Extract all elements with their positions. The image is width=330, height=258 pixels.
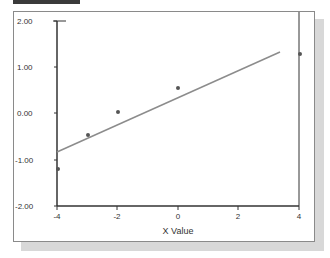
fit-line (57, 52, 280, 152)
svg-text:2: 2 (236, 212, 241, 221)
svg-text:4: 4 (297, 212, 302, 221)
svg-text:-4: -4 (53, 212, 61, 221)
data-point (116, 110, 120, 114)
svg-text:-2: -2 (113, 212, 121, 221)
data-point (298, 52, 302, 56)
svg-text:2.00: 2.00 (17, 17, 33, 26)
svg-text:0.00: 0.00 (17, 109, 33, 118)
svg-text:0: 0 (176, 212, 181, 221)
data-point (86, 133, 90, 137)
svg-text:1.00: 1.00 (17, 63, 33, 72)
data-point (56, 167, 60, 171)
y-tick-labels: 2.00 1.00 0.00 -1.00 -2.00 (15, 17, 34, 211)
scatter-chart: 2.00 1.00 0.00 -1.00 -2.00 -4 -2 0 2 4 X… (0, 0, 330, 258)
svg-text:-1.00: -1.00 (15, 156, 34, 165)
svg-text:-2.00: -2.00 (15, 202, 34, 211)
x-tick-labels: -4 -2 0 2 4 (53, 212, 301, 221)
data-points (56, 52, 302, 171)
data-point (176, 86, 180, 90)
x-axis-title: X Value (163, 226, 194, 236)
